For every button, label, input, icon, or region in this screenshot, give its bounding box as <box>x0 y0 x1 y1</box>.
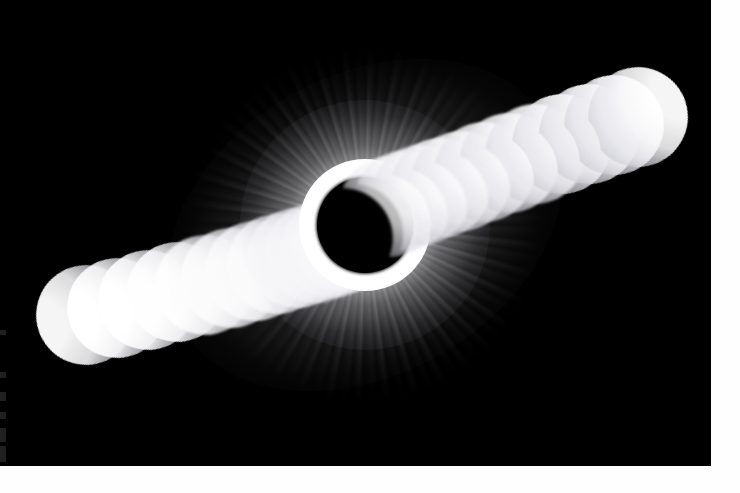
eclipse-photograph <box>0 0 711 466</box>
paper-margin-right <box>711 0 740 493</box>
edge-mark-1 <box>0 330 6 335</box>
edge-mark-6 <box>0 446 6 462</box>
eclipse-sequence-stage <box>0 0 711 466</box>
edge-mark-3 <box>0 392 6 401</box>
edge-mark-5 <box>0 428 6 442</box>
paper-margin-bottom <box>0 466 711 493</box>
edge-mark-4 <box>0 412 6 419</box>
eclipse-photo-page <box>0 0 740 493</box>
edge-mark-2 <box>0 372 6 378</box>
